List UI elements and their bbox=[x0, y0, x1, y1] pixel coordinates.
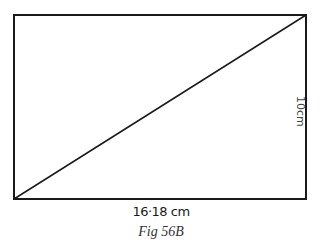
height-label: 10cm bbox=[294, 96, 307, 127]
figure-caption: Fig 56B bbox=[0, 224, 322, 240]
diagonal-line bbox=[14, 15, 306, 199]
width-label: 16·18 cm bbox=[0, 204, 322, 219]
